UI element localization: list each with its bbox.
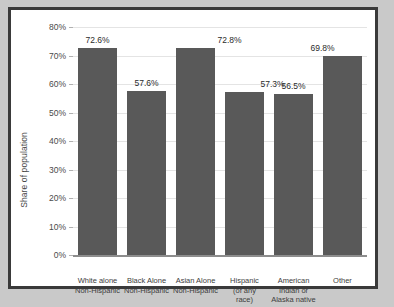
chart-frame: Share of population 80%70%60%50%40%30%20… [8, 7, 378, 289]
y-axis-tick-mark [69, 84, 73, 85]
bar [323, 56, 361, 255]
y-axis-tick-mark [69, 27, 73, 28]
y-axis-tick-mark [69, 198, 73, 199]
x-axis-category-label: White alone Non-Hispanic [73, 276, 122, 295]
bar [176, 48, 214, 255]
y-axis-tick-label: 80% [49, 22, 66, 32]
bar-value-label: 56.5% [274, 81, 312, 91]
y-axis-tick-label: 40% [49, 136, 66, 146]
x-axis-category-label: Asian Alone Non-Hispanic [171, 276, 220, 295]
y-axis-tick-mark [69, 170, 73, 171]
bar-value-label: 72.6% [78, 35, 116, 45]
plot-area: 80%70%60%50%40%30%20%10%0% 72.6%57.6%72.… [73, 27, 367, 255]
y-axis-tick-label: 10% [49, 222, 66, 232]
gridline [73, 27, 367, 28]
y-axis-tick-mark [69, 255, 73, 256]
bar-value-label: 57.6% [127, 78, 165, 88]
bar [78, 48, 116, 255]
x-axis-category-label: Black Alone Non-Hispanic [122, 276, 171, 295]
x-axis-category-label: Other [318, 276, 367, 286]
bar [225, 92, 263, 255]
bar-value-label: 72.8% [210, 35, 248, 45]
bar-value-label: 69.8% [303, 43, 341, 53]
y-axis-tick-label: 70% [49, 51, 66, 61]
bar [274, 94, 312, 255]
y-axis-tick-mark [69, 56, 73, 57]
x-axis-category-label: American Indian or Alaska native [269, 276, 318, 305]
y-axis-title-label: Share of population [19, 100, 29, 240]
y-axis-tick-label: 30% [49, 165, 66, 175]
y-axis-title: Share of population [19, 0, 33, 100]
y-axis-tick-mark [69, 113, 73, 114]
bar [127, 91, 165, 255]
x-axis-category-label: Hispanic (of any race) [220, 276, 269, 305]
y-axis-tick-label: 60% [49, 79, 66, 89]
x-axis-baseline [73, 255, 367, 257]
y-axis-tick-label: 0% [54, 250, 66, 260]
y-axis-tick-mark [69, 141, 73, 142]
y-axis-tick-label: 50% [49, 108, 66, 118]
y-axis-tick-label: 20% [49, 193, 66, 203]
y-axis-tick-mark [69, 227, 73, 228]
